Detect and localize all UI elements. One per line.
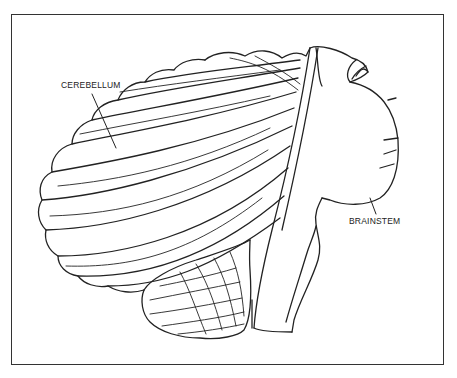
cerebellum-brainstem-illustration	[0, 0, 457, 378]
brainstem-label: BRAINSTEM	[349, 216, 400, 226]
cerebellum-label: CEREBELLUM	[61, 80, 121, 90]
brainstem-drawing	[252, 47, 398, 332]
cerebellum-leader-line	[92, 94, 116, 148]
